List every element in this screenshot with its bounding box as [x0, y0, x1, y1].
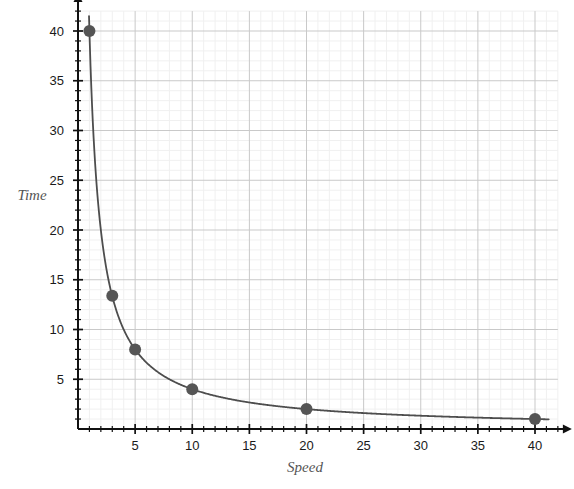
- x-axis-title: Speed: [287, 459, 323, 475]
- x-axis-tick-label: 15: [242, 438, 256, 453]
- x-axis-tick-label: 20: [299, 438, 313, 453]
- data-point-marker: [301, 403, 313, 415]
- y-axis-title: Time: [17, 187, 47, 203]
- y-axis-tick-label: 5: [57, 372, 64, 387]
- y-axis-tick-label: 20: [50, 223, 64, 238]
- y-axis-tick-label: 40: [50, 24, 64, 39]
- x-axis-tick-label: 30: [414, 438, 428, 453]
- y-axis-tick-label: 35: [50, 73, 64, 88]
- y-axis-arrowhead: [74, 0, 83, 2]
- x-axis-tick-label: 25: [356, 438, 370, 453]
- y-axis-tick-label: 10: [50, 322, 64, 337]
- x-axis-tick-label: 5: [132, 438, 139, 453]
- y-axis-tick-label: 25: [50, 173, 64, 188]
- data-point-marker: [529, 413, 541, 425]
- chart-container: 510152025303540510152025303540 Time Spee…: [0, 0, 574, 489]
- data-point-marker: [83, 25, 95, 37]
- y-axis-tick-label: 15: [50, 272, 64, 287]
- y-axis-tick-label: 30: [50, 123, 64, 138]
- data-point-marker: [186, 383, 198, 395]
- data-point-marker: [129, 343, 141, 355]
- x-axis-tick-label: 10: [185, 438, 199, 453]
- x-axis-tick-label: 35: [471, 438, 485, 453]
- chart-background: [0, 0, 574, 489]
- speed-time-chart: 510152025303540510152025303540 Time Spee…: [0, 0, 574, 489]
- data-point-marker: [106, 290, 118, 302]
- x-axis-tick-label: 40: [528, 438, 542, 453]
